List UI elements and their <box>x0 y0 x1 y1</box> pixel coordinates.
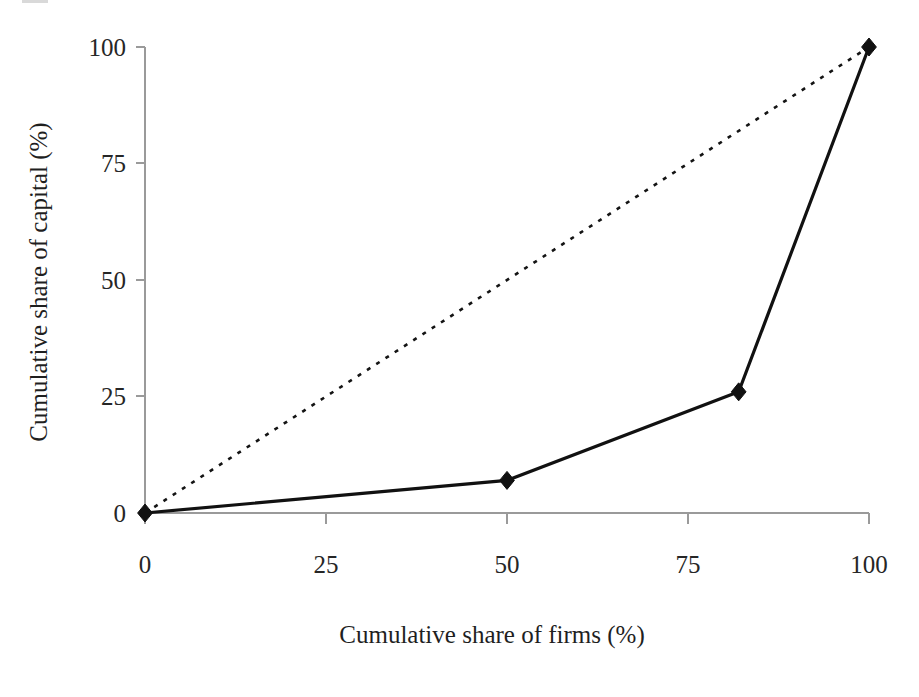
y-tick-label-100: 100 <box>89 34 127 61</box>
series-group <box>138 38 877 522</box>
x-tick-label-100: 100 <box>850 551 888 578</box>
chart-canvas: 100 75 50 25 0 0 25 50 75 100 Cumulative… <box>0 0 919 697</box>
y-tick-label-50: 50 <box>101 267 126 294</box>
data-point-marker <box>731 383 746 401</box>
data-point-marker <box>138 504 153 522</box>
x-tick-label-50: 50 <box>495 551 520 578</box>
y-tick-label-25: 25 <box>101 383 126 410</box>
y-tick-label-0: 0 <box>114 500 127 527</box>
data-point-marker <box>500 471 515 489</box>
x-tick-label-0: 0 <box>139 551 152 578</box>
x-axis-title: Cumulative share of firms (%) <box>339 621 644 649</box>
x-tick-label-25: 25 <box>314 551 339 578</box>
lorenz-curve-figure: 100 75 50 25 0 0 25 50 75 100 Cumulative… <box>0 0 919 697</box>
y-tick-label-75: 75 <box>101 150 126 177</box>
scan-artifact <box>22 0 48 3</box>
data-point-marker <box>862 38 877 56</box>
line-of-equality <box>145 47 869 513</box>
y-tick-labels: 100 75 50 25 0 <box>89 34 127 527</box>
y-axis-title: Cumulative share of capital (%) <box>25 122 53 441</box>
x-tick-label-75: 75 <box>676 551 701 578</box>
x-tick-labels: 0 25 50 75 100 <box>139 551 888 578</box>
